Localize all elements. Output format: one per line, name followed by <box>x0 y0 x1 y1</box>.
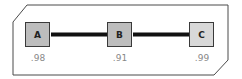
node-a-label: A <box>34 30 41 40</box>
node-b-label: B <box>116 30 123 40</box>
node-c-label: C <box>198 30 205 40</box>
node-b: B <box>107 22 132 47</box>
node-c-value: .99 <box>187 53 217 63</box>
node-a: A <box>25 22 50 47</box>
node-a-value: .98 <box>23 53 53 63</box>
node-b-value: .91 <box>105 53 135 63</box>
node-c: C <box>189 22 214 47</box>
